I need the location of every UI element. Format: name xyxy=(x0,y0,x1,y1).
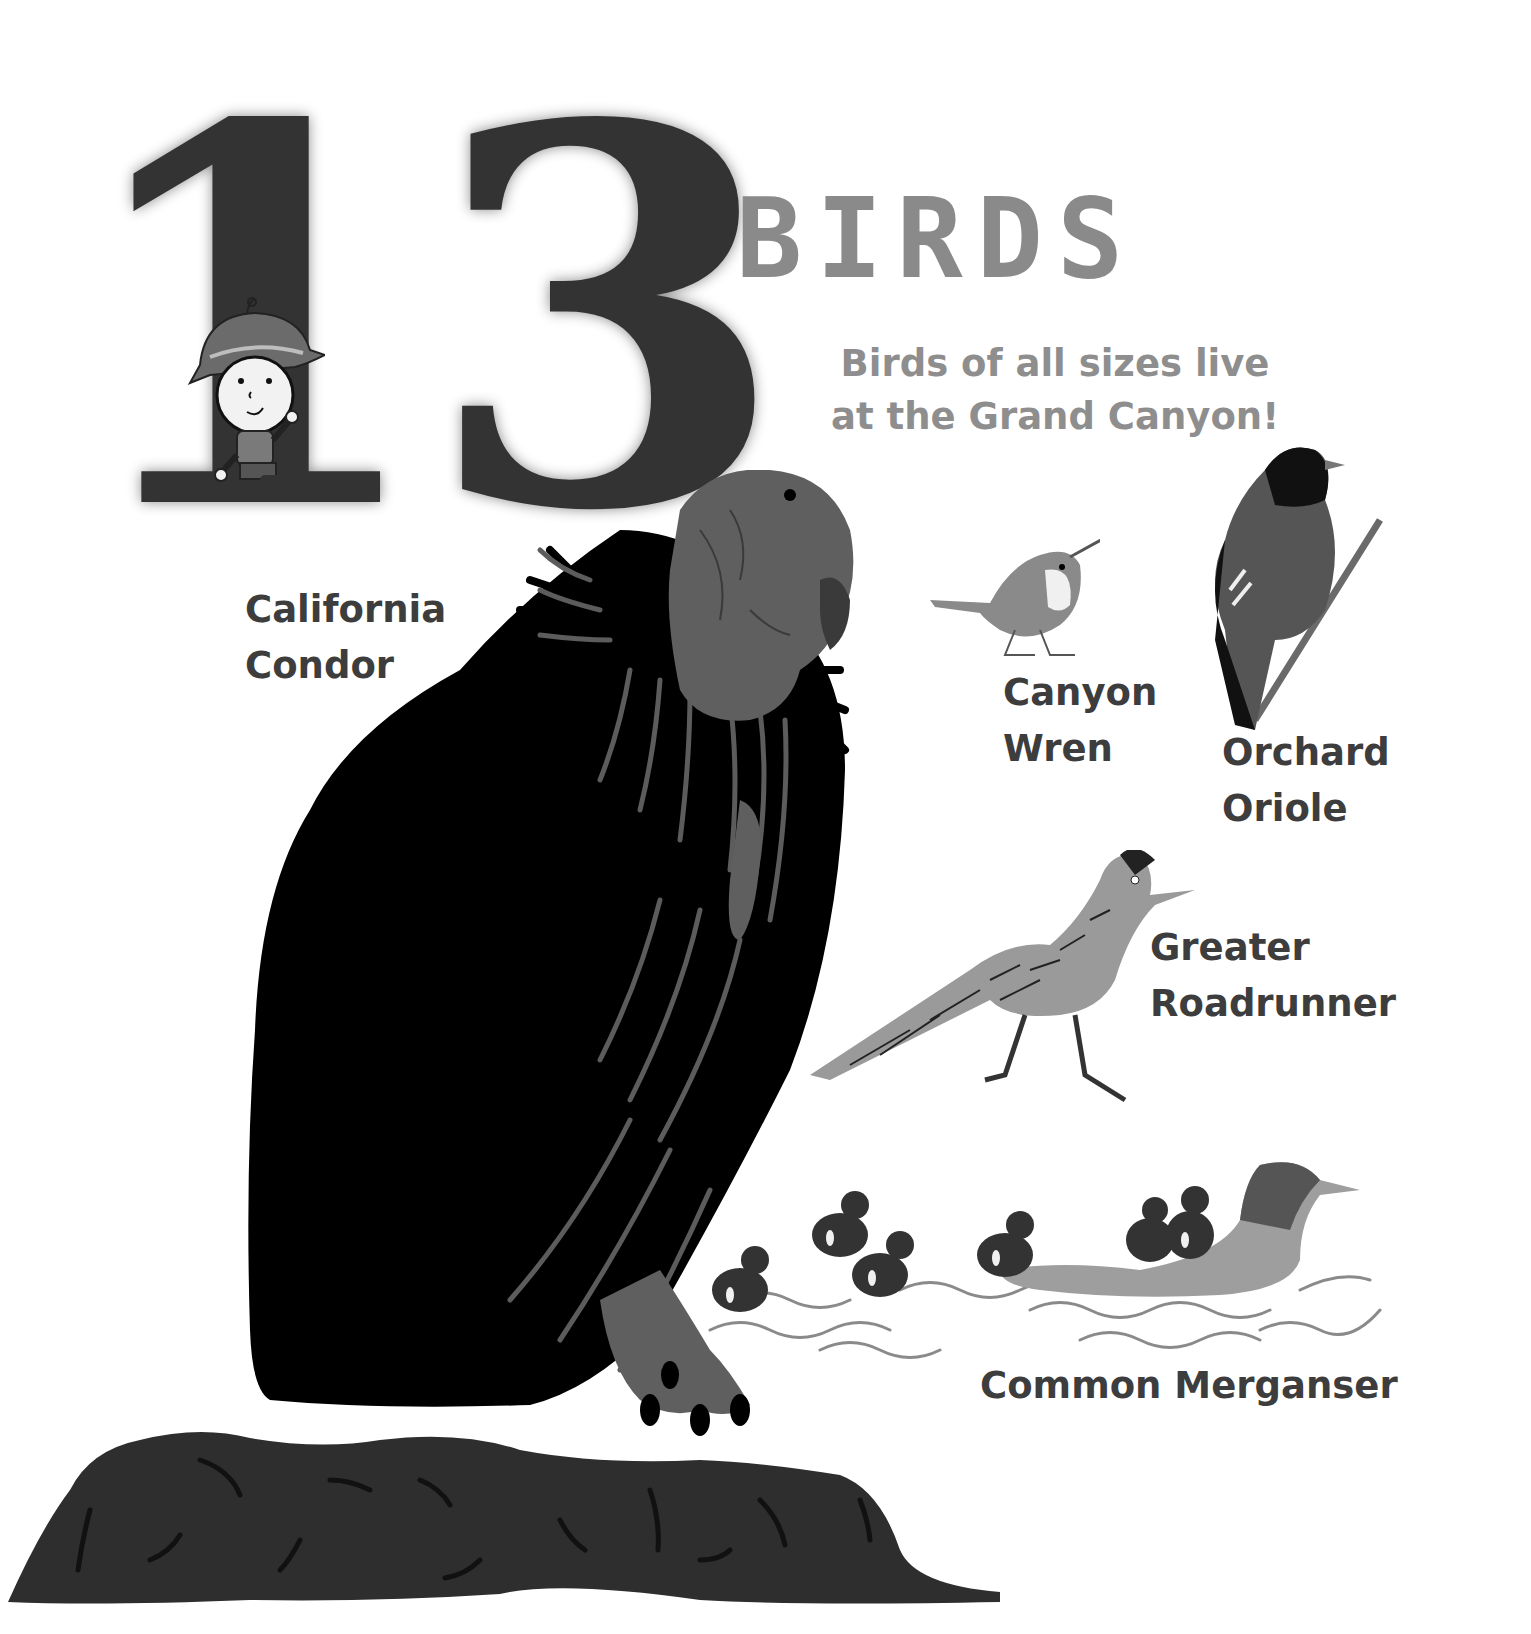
subtitle-line-1: Birds of all sizes live xyxy=(790,337,1320,390)
label-orchard-oriole: Orchard Oriole xyxy=(1222,725,1390,837)
label-line: Greater xyxy=(1150,920,1396,976)
label-line: Wren xyxy=(1003,721,1157,777)
label-line: Oriole xyxy=(1222,781,1390,837)
common-merganser-illustration xyxy=(700,1160,1420,1360)
label-line: Condor xyxy=(245,638,446,694)
label-line: Orchard xyxy=(1222,725,1390,781)
label-common-merganser: Common Merganser xyxy=(980,1358,1398,1414)
canyon-wren-illustration xyxy=(930,525,1100,660)
page-title: BIRDS xyxy=(736,175,1137,303)
page-subtitle: Birds of all sizes live at the Grand Can… xyxy=(790,337,1320,443)
orchard-oriole-illustration xyxy=(1195,440,1395,740)
label-line: Roadrunner xyxy=(1150,976,1396,1032)
label-canyon-wren: Canyon Wren xyxy=(1003,665,1157,777)
label-line: Common Merganser xyxy=(980,1358,1398,1414)
label-greater-roadrunner: Greater Roadrunner xyxy=(1150,920,1396,1032)
label-california-condor: California Condor xyxy=(245,582,446,694)
subtitle-line-2: at the Grand Canyon! xyxy=(790,390,1320,443)
mascot-child-illustration xyxy=(185,295,325,495)
label-line: Canyon xyxy=(1003,665,1157,721)
label-line: California xyxy=(245,582,446,638)
